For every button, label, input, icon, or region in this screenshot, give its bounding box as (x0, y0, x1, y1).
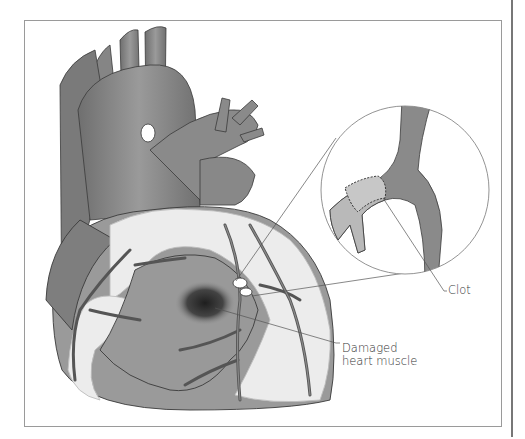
damaged-muscle-area (175, 281, 235, 325)
label-damaged-heart-muscle: Damaged heart muscle (342, 342, 417, 368)
label-clot: Clot (448, 284, 471, 297)
heart-body (46, 207, 334, 410)
label-damaged-line2: heart muscle (342, 355, 417, 368)
magnified-artery-view (321, 98, 489, 283)
heart-illustration (0, 0, 525, 439)
